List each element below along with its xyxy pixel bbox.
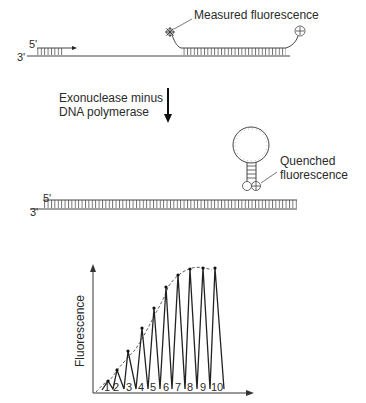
measured-fluorescence-label: Measured fluorescence xyxy=(194,8,319,22)
chart-y-axis-label: Fluorescence xyxy=(73,295,87,367)
diagram-canvas xyxy=(0,0,366,403)
hairpin-probe xyxy=(233,127,277,191)
quenched-label-line2: fluorescence xyxy=(280,168,348,182)
x-tick: 5 xyxy=(150,381,156,393)
x-tick: 6 xyxy=(163,381,169,393)
x-tick: 8 xyxy=(187,381,193,393)
quenched-label-line1: Quenched xyxy=(280,154,335,168)
primer-top xyxy=(37,46,77,55)
x-tick: 7 xyxy=(175,381,181,393)
quenched-leader-line xyxy=(261,172,277,183)
process-label-line2: DNA polymerase xyxy=(59,105,149,119)
fluorophore-circle-icon xyxy=(243,182,252,191)
x-tick: 10 xyxy=(211,381,223,393)
x-tick: 1 xyxy=(104,381,110,393)
quencher-plus-icon xyxy=(295,26,305,36)
chart-axes xyxy=(90,264,254,396)
template-strand-bottom xyxy=(30,200,297,209)
three-prime-label-bottom: 3' xyxy=(30,205,38,219)
measured-leader-line xyxy=(174,19,192,29)
x-tick: 2 xyxy=(113,381,119,393)
probe-top xyxy=(172,35,298,55)
extension-arrow-icon xyxy=(72,46,77,50)
process-label-line1: Exonuclease minus xyxy=(59,91,163,105)
quencher-plus-icon-bottom xyxy=(252,182,261,191)
fluorescence-zigzag xyxy=(102,268,224,390)
fluorophore-star-icon xyxy=(165,27,175,37)
five-prime-label-top: 5' xyxy=(29,37,37,51)
five-prime-label-bottom: 5' xyxy=(43,191,51,205)
x-tick: 3 xyxy=(126,381,132,393)
sigmoid-envelope xyxy=(96,267,212,392)
process-down-arrow-icon xyxy=(164,88,172,123)
three-prime-label-top: 3' xyxy=(17,50,25,64)
x-tick: 4 xyxy=(138,381,144,393)
x-tick: 9 xyxy=(200,381,206,393)
